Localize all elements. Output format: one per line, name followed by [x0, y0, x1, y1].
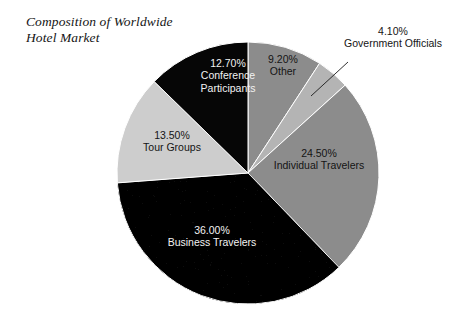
slice-name-text: Government Officials [344, 37, 442, 49]
slice-name-text: Business Travelers [168, 236, 257, 248]
slice-value-text: 9.20% [268, 53, 298, 65]
slice-name-text: Conference [201, 69, 255, 81]
slice-name-text: Participants [201, 81, 256, 93]
slice-name-text: Tour Groups [143, 141, 201, 153]
slice-value-text: 13.50% [154, 129, 190, 141]
pie-chart-svg: 9.20%Other4.10%Government Officials24.50… [0, 0, 467, 316]
slice-name-text: Other [270, 65, 297, 77]
pie-chart-figure: Composition of Worldwide Hotel Market 9.… [0, 0, 467, 316]
slice-value-text: 12.70% [210, 56, 246, 68]
slice-name-text: Individual Travelers [274, 159, 364, 171]
slice-value-text: 4.10% [378, 25, 408, 37]
slice-value-text: 36.00% [194, 224, 230, 236]
slice-label-government-officials: 4.10%Government Officials [344, 25, 442, 50]
slice-label-other: 9.20%Other [268, 53, 298, 78]
slice-value-text: 24.50% [301, 147, 337, 159]
